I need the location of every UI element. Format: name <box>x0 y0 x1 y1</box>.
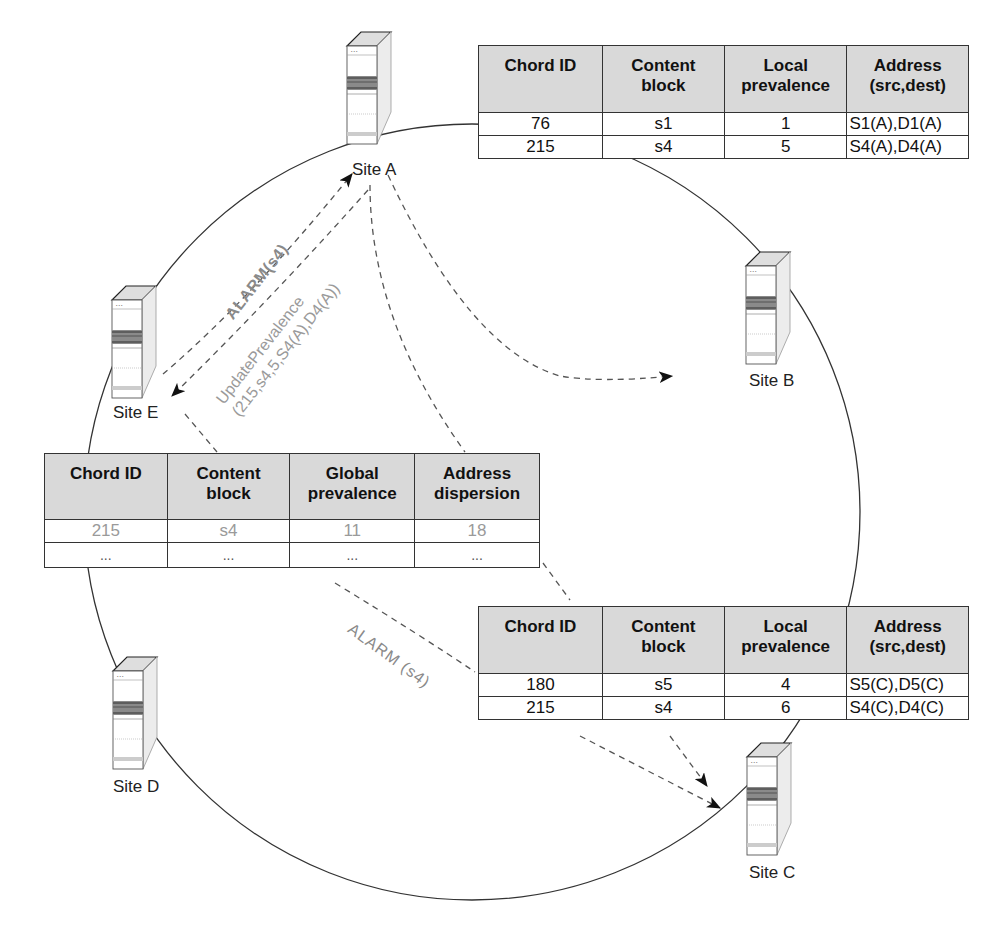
header-local-prevalence: Localprevalence <box>724 607 846 674</box>
server-site-a-icon <box>347 32 391 144</box>
header-address: Address(src,dest) <box>847 607 969 674</box>
cell-local-prevalence: 1 <box>724 113 846 136</box>
server-site-e-icon <box>112 286 156 398</box>
cell-chord-id: 215 <box>479 136 603 159</box>
header-chord-id: Chord ID <box>479 46 603 113</box>
header-content-block: Contentblock <box>602 607 724 674</box>
header-global-prevalence: Globalprevalence <box>290 454 415 520</box>
cell-ellipsis: ... <box>415 543 540 568</box>
table-row: 76 s1 1 S1(A),D1(A) <box>479 113 969 136</box>
cell-local-prevalence: 4 <box>724 674 846 697</box>
table-site-c: Chord ID Contentblock Localprevalence Ad… <box>478 606 969 720</box>
site-e-label: Site E <box>113 403 158 423</box>
cell-address: S1(A),D1(A) <box>847 113 969 136</box>
header-address: Address(src,dest) <box>847 46 969 113</box>
cell-content-block: s5 <box>602 674 724 697</box>
cell-address: S4(A),D4(A) <box>847 136 969 159</box>
cell-content-block: s4 <box>167 520 290 543</box>
cell-ellipsis: ... <box>290 543 415 568</box>
cell-chord-id: 215 <box>45 520 168 543</box>
cell-content-block: s4 <box>602 697 724 720</box>
cell-global-prevalence: 11 <box>290 520 415 543</box>
cell-content-block: s4 <box>602 136 724 159</box>
cell-chord-id: 215 <box>479 697 603 720</box>
table-row: 215 s4 11 18 <box>45 520 540 543</box>
cell-local-prevalence: 6 <box>724 697 846 720</box>
table-row: 215 s4 6 S4(C),D4(C) <box>479 697 969 720</box>
table-row: ... ... ... ... <box>45 543 540 568</box>
site-b-label: Site B <box>749 371 794 391</box>
cell-address: S5(C),D5(C) <box>847 674 969 697</box>
cell-chord-id: 76 <box>479 113 603 136</box>
cell-ellipsis: ... <box>167 543 290 568</box>
table-site-a: Chord ID Contentblock Localprevalence Ad… <box>478 45 969 159</box>
cell-chord-id: 180 <box>479 674 603 697</box>
table-row: 180 s5 4 S5(C),D5(C) <box>479 674 969 697</box>
cell-local-prevalence: 5 <box>724 136 846 159</box>
table-site-e: Chord ID Contentblock Globalprevalence A… <box>44 453 540 568</box>
header-chord-id: Chord ID <box>45 454 168 520</box>
server-site-b-icon <box>746 252 790 364</box>
header-chord-id: Chord ID <box>479 607 603 674</box>
cell-address-dispersion: 18 <box>415 520 540 543</box>
header-content-block: Contentblock <box>602 46 724 113</box>
table-row: 215 s4 5 S4(A),D4(A) <box>479 136 969 159</box>
site-d-label: Site D <box>113 777 159 797</box>
cell-ellipsis: ... <box>45 543 168 568</box>
site-c-label: Site C <box>749 863 795 883</box>
server-site-d-icon <box>113 657 157 769</box>
cell-content-block: s1 <box>602 113 724 136</box>
site-a-label: Site A <box>352 160 396 180</box>
header-local-prevalence: Localprevalence <box>724 46 846 113</box>
cell-address: S4(C),D4(C) <box>847 697 969 720</box>
header-content-block: Contentblock <box>167 454 290 520</box>
server-site-c-icon <box>747 743 791 855</box>
header-address-dispersion: Addressdispersion <box>415 454 540 520</box>
